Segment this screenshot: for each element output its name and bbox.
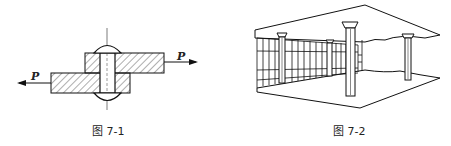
rivet-shank <box>100 53 115 93</box>
column-capital <box>277 33 287 37</box>
arrow-right-icon <box>189 59 198 65</box>
rivet-head-top <box>94 46 121 54</box>
rivet-head-bottom <box>94 93 121 101</box>
column <box>327 43 332 76</box>
figure-caption: 图 7-2 <box>333 122 365 138</box>
force-label-left: P <box>31 70 39 83</box>
arrow-left-icon <box>17 80 26 86</box>
force-label-right: P <box>177 50 185 63</box>
top-plate <box>85 53 164 73</box>
figure-7-2: 图 7-2 <box>225 0 451 146</box>
bottom-plate <box>51 73 130 93</box>
figure-caption: 图 7-1 <box>92 122 124 138</box>
figure-7-1: P P 图 7-1 <box>0 0 225 146</box>
